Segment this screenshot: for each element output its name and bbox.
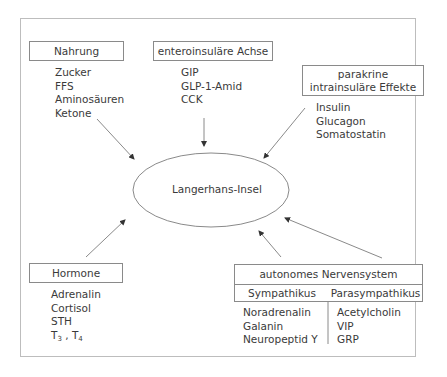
enteroinsular-item: GIP: [181, 66, 242, 80]
hormone-item: STH: [51, 315, 101, 329]
hormone-item: Cortisol: [51, 302, 101, 316]
parasympathikus-header: Parasympathikus: [329, 284, 422, 302]
parasympathikus-item: VIP: [337, 320, 401, 334]
parakrin-title-line2: intrainsuläre Effekte: [303, 81, 423, 94]
enteroinsular-list: GIP GLP-1-Amid CCK: [181, 66, 242, 107]
parakrin-list: Insulin Glucagon Somatostatin: [316, 101, 386, 142]
enteroinsular-item: GLP-1-Amid: [181, 80, 242, 94]
nahrung-item: FFS: [55, 80, 124, 94]
sympathikus-header: Sympathikus: [235, 284, 329, 302]
parakrin-item: Glucagon: [316, 115, 386, 129]
parasympathikus-item: Acetylcholin: [337, 306, 401, 320]
arrow-parakrin: [264, 108, 305, 158]
sympathikus-item: Noradrenalin: [243, 306, 318, 320]
parakrin-item: Somatostatin: [316, 128, 386, 142]
arrow-hormone: [86, 220, 125, 257]
sympathikus-item: Neuropeptid Y: [243, 333, 318, 347]
nahrung-item: Zucker: [55, 66, 124, 80]
hormone-list: Adrenalin Cortisol STH T3 , T4: [51, 288, 101, 346]
parakrin-box: parakrine intrainsuläre Effekte: [302, 65, 424, 96]
parakrin-title-line1: parakrine: [303, 68, 423, 81]
hormone-box: Hormone: [29, 263, 123, 283]
langerhans-label: Langerhans-Insel: [172, 183, 262, 195]
arrow-nahrung: [97, 119, 134, 159]
parakrin-item: Insulin: [316, 101, 386, 115]
enteroinsular-item: CCK: [181, 93, 242, 107]
nahrung-item: Aminosäuren: [55, 93, 124, 107]
ans-title: autonomes Nervensystem: [235, 265, 422, 285]
nahrung-box: Nahrung: [29, 41, 124, 61]
parasympathikus-list: Acetylcholin VIP GRP: [337, 306, 401, 347]
enteroinsular-box: enteroinsuläre Achse: [153, 41, 273, 61]
sympathikus-list: Noradrenalin Galanin Neuropeptid Y: [243, 306, 318, 347]
arrow-sympathikus: [259, 231, 281, 257]
arrow-parasympathikus: [285, 218, 382, 258]
nahrung-list: Zucker FFS Aminosäuren Ketone: [55, 66, 124, 120]
enteroinsular-title: enteroinsuläre Achse: [158, 45, 269, 57]
nahrung-item: Ketone: [55, 107, 124, 121]
parasympathikus-item: GRP: [337, 333, 401, 347]
hormone-item-t3-t4: T3 , T4: [51, 329, 101, 347]
ans-box: autonomes Nervensystem Sympathikus Paras…: [234, 264, 423, 302]
hormone-title: Hormone: [52, 267, 100, 279]
nahrung-title: Nahrung: [54, 45, 99, 57]
sympathikus-item: Galanin: [243, 320, 318, 334]
hormone-item: Adrenalin: [51, 288, 101, 302]
